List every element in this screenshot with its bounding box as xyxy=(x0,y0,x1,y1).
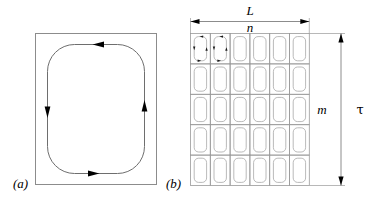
lattice-cell xyxy=(290,125,310,155)
lattice-cell xyxy=(191,155,211,185)
lattice-row xyxy=(191,125,310,155)
cell-top-arrow-icon xyxy=(200,35,204,37)
lattice-cell xyxy=(210,34,230,64)
figure-canvas: (a) xyxy=(0,0,376,207)
lattice-cell xyxy=(210,64,230,94)
lattice-cell xyxy=(210,155,230,185)
cell-right-arrow-icon xyxy=(205,47,207,51)
lattice-row xyxy=(191,64,310,94)
lattice-cell xyxy=(270,155,290,185)
lattice-cell xyxy=(270,64,290,94)
loop-top-arrow-icon xyxy=(93,42,105,48)
cell-left-arrow-icon xyxy=(213,47,215,51)
lattice-cell xyxy=(290,94,310,124)
panel-a-frame xyxy=(36,34,157,185)
panel-a: (a) xyxy=(13,34,157,192)
lattice-cell xyxy=(250,94,270,124)
panel-b: L n m τ (b) xyxy=(166,3,364,191)
count-m-label: m xyxy=(317,102,326,117)
cell-bottom-arrow-icon xyxy=(217,60,221,62)
lattice-cell xyxy=(230,125,250,155)
lattice-cell xyxy=(250,34,270,64)
loop-left-arrow-icon xyxy=(45,107,51,119)
lattice-row xyxy=(191,34,310,64)
lattice-cell xyxy=(230,34,250,64)
lattice-cell xyxy=(270,34,290,64)
lattice-cell xyxy=(250,155,270,185)
panel-b-label: (b) xyxy=(166,176,181,191)
lattice-cell xyxy=(230,94,250,124)
cell-right-arrow-icon xyxy=(225,47,227,51)
cell-top-arrow-icon xyxy=(219,35,223,37)
lattice-cell xyxy=(230,64,250,94)
lattice-cell xyxy=(210,94,230,124)
lattice-cell xyxy=(250,64,270,94)
lattice-row xyxy=(191,94,310,124)
count-n-label: n xyxy=(247,20,254,35)
lattice-cell xyxy=(191,64,211,94)
dim-arrow-bottom-icon xyxy=(338,177,343,186)
lattice-row xyxy=(191,155,310,185)
dim-arrow-top-icon xyxy=(338,34,343,43)
loop-right-arrow-icon xyxy=(142,100,148,112)
lattice-cell xyxy=(290,155,310,185)
dim-arrow-right-icon xyxy=(300,19,309,24)
height-dimension: m τ xyxy=(309,34,363,186)
lattice-cell xyxy=(270,125,290,155)
lattice-cell xyxy=(191,34,211,64)
lattice-cell xyxy=(250,125,270,155)
cell-lattice xyxy=(191,34,310,186)
panel-a-label: (a) xyxy=(13,176,28,191)
loop-bottom-arrow-icon xyxy=(88,171,100,177)
tau-label: τ xyxy=(356,102,363,117)
cell-bottom-arrow-icon xyxy=(198,60,202,62)
lattice-cell xyxy=(191,125,211,155)
lattice-cell xyxy=(210,125,230,155)
lattice-cell xyxy=(270,94,290,124)
lattice-cell xyxy=(230,155,250,185)
cell-left-arrow-icon xyxy=(193,47,195,51)
dim-arrow-left-icon xyxy=(191,19,200,24)
lattice-cell xyxy=(290,34,310,64)
width-dimension: L n xyxy=(191,3,310,35)
lattice-cell xyxy=(191,94,211,124)
figure-root: (a) xyxy=(0,0,376,207)
length-L-label: L xyxy=(245,3,253,18)
lattice-cell xyxy=(290,64,310,94)
circulation-loop xyxy=(48,45,145,174)
